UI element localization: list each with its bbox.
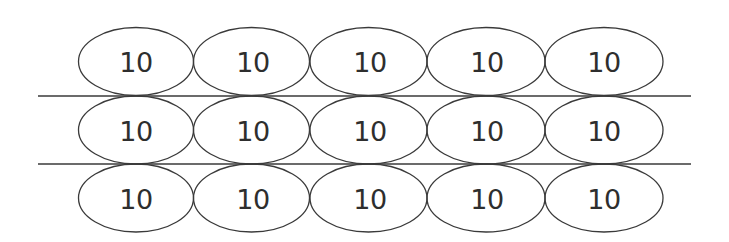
ten-frames-diagram: 10 10 10 10 10 10 10 10 bbox=[0, 0, 729, 242]
token-value: 10 bbox=[353, 47, 386, 78]
token-r3-c3: 10 bbox=[310, 164, 427, 232]
token-value: 10 bbox=[236, 184, 269, 215]
token-value: 10 bbox=[119, 184, 152, 215]
token-r2-c5: 10 bbox=[545, 96, 663, 164]
token-r1-c4: 10 bbox=[427, 28, 545, 96]
token-r1-c1: 10 bbox=[79, 28, 194, 96]
token-value: 10 bbox=[587, 116, 620, 147]
token-value: 10 bbox=[353, 184, 386, 215]
token-r2-c3: 10 bbox=[310, 96, 427, 164]
token-r2-c2: 10 bbox=[194, 96, 310, 164]
row-3: 10 10 10 10 10 bbox=[79, 164, 664, 232]
row-2: 10 10 10 10 10 bbox=[79, 96, 664, 164]
token-value: 10 bbox=[119, 116, 152, 147]
token-value: 10 bbox=[470, 116, 503, 147]
token-value: 10 bbox=[236, 47, 269, 78]
token-r3-c5: 10 bbox=[545, 164, 663, 232]
token-r3-c1: 10 bbox=[79, 164, 194, 232]
token-value: 10 bbox=[470, 47, 503, 78]
token-r3-c4: 10 bbox=[427, 164, 545, 232]
token-value: 10 bbox=[470, 184, 503, 215]
token-r3-c2: 10 bbox=[194, 164, 310, 232]
token-value: 10 bbox=[119, 47, 152, 78]
token-r1-c3: 10 bbox=[310, 28, 427, 96]
token-value: 10 bbox=[587, 47, 620, 78]
token-r2-c4: 10 bbox=[427, 96, 545, 164]
token-value: 10 bbox=[587, 184, 620, 215]
token-r2-c1: 10 bbox=[79, 96, 194, 164]
token-r1-c2: 10 bbox=[194, 28, 310, 96]
token-r1-c5: 10 bbox=[545, 28, 663, 96]
row-1: 10 10 10 10 10 bbox=[79, 28, 664, 96]
token-value: 10 bbox=[353, 116, 386, 147]
token-value: 10 bbox=[236, 116, 269, 147]
